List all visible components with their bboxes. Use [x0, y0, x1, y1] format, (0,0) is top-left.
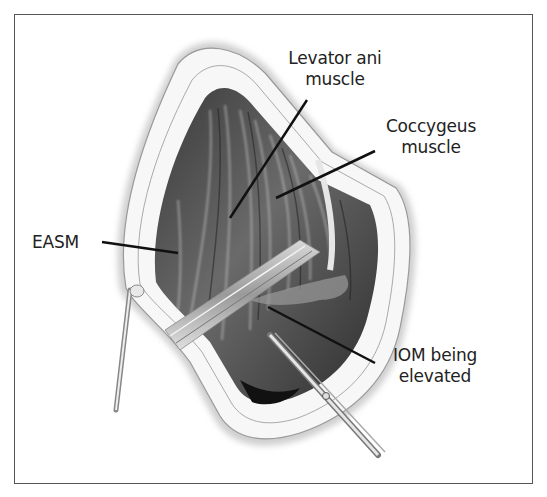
label-easm: EASM	[32, 232, 96, 253]
label-levator-ani: Levator ani muscle	[265, 48, 405, 90]
label-coccygeus-line1: Coccygeus	[371, 116, 491, 137]
label-iom-line1: IOM being	[380, 345, 490, 366]
label-coccygeus-line2: muscle	[371, 137, 491, 158]
label-easm-text: EASM	[32, 232, 96, 253]
label-coccygeus: Coccygeus muscle	[371, 116, 491, 158]
label-levator-line2: muscle	[265, 69, 405, 90]
label-iom-line2: elevated	[380, 366, 490, 387]
label-levator-line1: Levator ani	[265, 48, 405, 69]
label-iom: IOM being elevated	[380, 345, 490, 387]
